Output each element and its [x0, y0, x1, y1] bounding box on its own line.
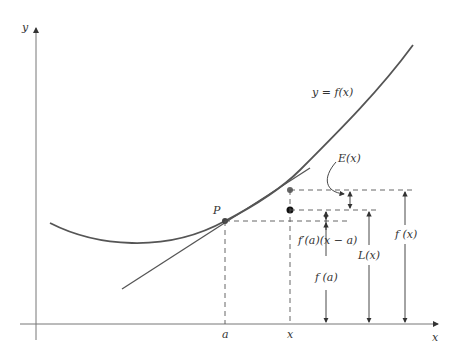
- function-curve: [50, 45, 413, 243]
- y-axis-label: y: [21, 21, 29, 34]
- error-label: E(x): [337, 152, 361, 165]
- error-pointer: [327, 162, 344, 194]
- curve-label: y = f(x): [311, 86, 353, 99]
- lx-label: L(x): [357, 249, 380, 262]
- fx-label: f (x): [394, 228, 417, 241]
- tick-x: x: [287, 328, 294, 341]
- x-axis-label: x: [432, 331, 439, 344]
- point-p-label: P: [212, 204, 221, 217]
- linear-approximation-diagram: y x y = f(x) P a x E(x) f′(a)(x − a) f (…: [0, 0, 456, 351]
- tick-a: a: [222, 328, 229, 341]
- increment-label: f′(a)(x − a): [297, 234, 357, 247]
- fa-label: f (a): [314, 271, 338, 284]
- tangent-line: [122, 168, 310, 289]
